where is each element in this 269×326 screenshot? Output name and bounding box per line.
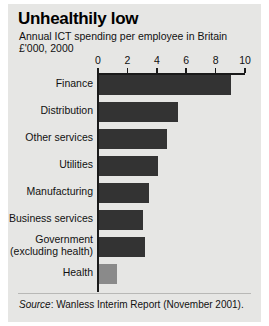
x-tick-mark	[185, 68, 187, 73]
source-text: : Wanless Interim Report (November 2001)…	[51, 299, 244, 310]
source-note: Source: Wanless Interim Report (November…	[19, 299, 244, 310]
bar-category-label: Finance	[8, 78, 93, 90]
bar	[99, 102, 178, 122]
bar	[99, 183, 149, 203]
bar-category-label: Business services	[8, 213, 93, 225]
bar	[99, 129, 167, 149]
bar	[99, 156, 158, 176]
plot-area: 0246810 FinanceDistributionOther service…	[8, 54, 261, 294]
bar-series: FinanceDistributionOther servicesUtiliti…	[8, 75, 261, 291]
x-tick-mark	[127, 68, 129, 73]
bar-category-label: Health	[8, 267, 93, 279]
bar-category-label: Manufacturing	[8, 186, 93, 198]
x-tick-label: 6	[183, 54, 189, 66]
x-tick-mark	[156, 68, 158, 73]
chart-title: Unhealthily low	[18, 9, 138, 28]
x-tick-label: 8	[213, 54, 219, 66]
bar	[99, 237, 145, 257]
x-tick-label: 4	[154, 54, 160, 66]
bar-row: Utilities	[8, 156, 261, 183]
bar-row: Government(excluding health)	[8, 237, 261, 264]
bar-row: Finance	[8, 75, 261, 102]
source-label: Source	[19, 299, 51, 310]
chart-figure: Unhealthily low Annual ICT spending per …	[8, 4, 261, 322]
bar-category-label: Utilities	[8, 159, 93, 171]
bar-row: Health	[8, 264, 261, 291]
footer-divider	[18, 293, 251, 294]
bar-category-label: Distribution	[8, 105, 93, 117]
x-axis-tick-labels: 0246810	[8, 54, 261, 67]
bar-category-label: Other services	[8, 132, 93, 144]
bar	[99, 264, 117, 284]
bar-row: Distribution	[8, 102, 261, 129]
chart-subtitle: Annual ICT spending per employee in Brit…	[19, 30, 227, 43]
bar	[99, 210, 143, 230]
bar-row: Other services	[8, 129, 261, 156]
x-tick-label: 0	[95, 54, 101, 66]
bar-category-label: Government(excluding health)	[8, 234, 93, 257]
bar	[99, 75, 231, 95]
x-tick-mark	[215, 68, 217, 73]
chart-units-label: £'000, 2000	[19, 42, 74, 55]
x-tick-mark	[244, 68, 246, 73]
x-tick-label: 2	[124, 54, 130, 66]
x-tick-label: 10	[239, 54, 251, 66]
bar-row: Manufacturing	[8, 183, 261, 210]
x-tick-mark	[97, 68, 99, 73]
